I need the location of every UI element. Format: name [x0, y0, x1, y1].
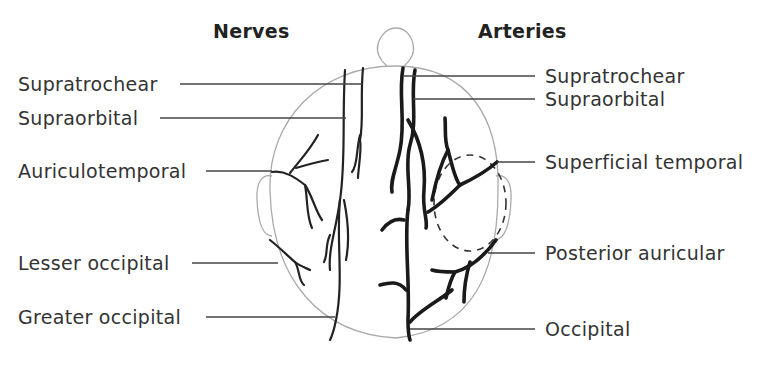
artery-label-occipital: Occipital: [545, 318, 631, 340]
scalp-innervation-diagram: Nerves Arteries Supratrochear Supraorbit…: [0, 0, 780, 370]
nerve-branches: [270, 68, 363, 340]
artery-label-superficial-temporal: Superficial temporal: [545, 151, 743, 173]
artery-label-supratrochear: Supratrochear: [545, 65, 685, 87]
head-outline: [257, 28, 511, 338]
nerve-label-greater-occipital: Greater occipital: [18, 306, 181, 328]
artery-label-posterior-auricular: Posterior auricular: [545, 242, 725, 264]
arteries-heading: Arteries: [478, 20, 567, 42]
artery-label-supraorbital: Supraorbital: [545, 88, 665, 110]
leader-lines: [160, 76, 535, 329]
nerve-label-supratrochear: Supratrochear: [18, 73, 158, 95]
nerves-heading: Nerves: [213, 20, 290, 42]
nerve-label-supraorbital: Supraorbital: [18, 107, 138, 129]
nerve-label-lesser-occipital: Lesser occipital: [18, 252, 170, 274]
nerve-label-auriculotemporal: Auriculotemporal: [18, 160, 186, 182]
